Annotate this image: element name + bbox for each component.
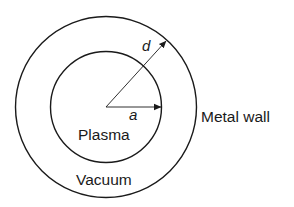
plasma-label: Plasma <box>78 126 130 143</box>
metal-wall-label: Metal wall <box>201 108 270 125</box>
inner-radius-label: a <box>129 106 137 123</box>
vacuum-label: Vacuum <box>76 171 132 188</box>
outer-radius-arrow <box>106 41 166 107</box>
plasma-cross-section-diagram: d a Plasma Vacuum Metal wall <box>0 0 294 207</box>
outer-radius-label: d <box>142 37 151 54</box>
